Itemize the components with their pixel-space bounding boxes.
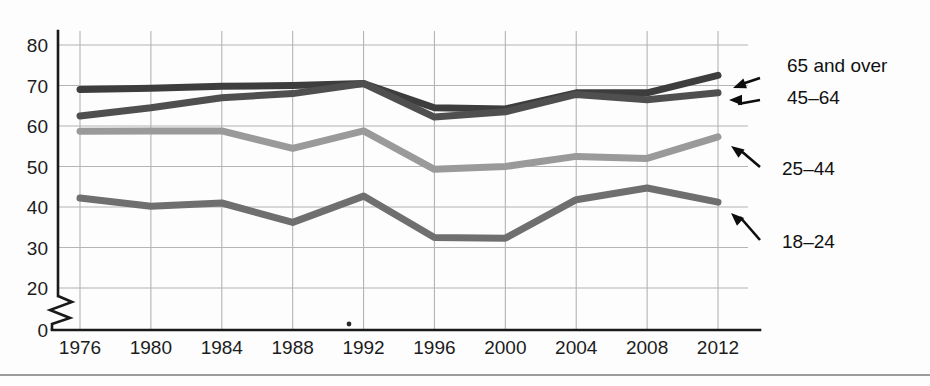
y-tick-label: 20 [27,278,48,299]
x-tick-label: 1980 [130,337,172,358]
y-tick-label: 50 [27,157,48,178]
data-line-18-24 [80,188,718,238]
annotation-arrowhead [729,95,742,105]
y-tick-label: 80 [27,35,48,56]
annotation-leader-line [740,150,760,167]
x-tick-label: 2004 [555,337,598,358]
data-line-25-44 [80,131,718,169]
y-axis-break-symbol [50,296,72,330]
data-series-group [80,75,718,238]
annotation-leader-line [740,217,760,240]
annotations-group: 65 and over45–6425–4418–24 [729,55,888,252]
y-tick-label: 30 [27,238,48,259]
x-tick-label: 2000 [484,337,526,358]
annotation-arrowhead [731,213,744,226]
x-tick-label: 1988 [272,337,314,358]
figure-container: 0203040506070801976198019841988199219962… [0,0,930,386]
x-tick-label: 1976 [59,337,101,358]
series-annotation-label-25-44: 25–44 [782,158,835,179]
annotation-arrowhead [733,79,747,89]
x-tick-label: 2008 [626,337,668,358]
scan-speck [347,322,352,327]
y-tick-label: 40 [27,197,48,218]
series-annotation-label-18-24: 18–24 [782,231,835,252]
series-annotation-label-65-and-over: 65 and over [787,55,888,76]
tick-labels-group: 0203040506070801976198019841988199219962… [27,35,739,358]
line-chart: 0203040506070801976198019841988199219962… [0,0,930,386]
y-tick-label: 60 [27,116,48,137]
x-tick-label: 1984 [201,337,244,358]
y-tick-label: 0 [37,320,48,341]
x-tick-label: 1996 [413,337,455,358]
series-annotation-label-45-64: 45–64 [787,87,840,108]
x-tick-label: 1992 [342,337,384,358]
x-tick-label: 2012 [697,337,739,358]
grid [58,31,748,330]
axes [50,31,760,330]
annotation-arrowhead [731,146,745,158]
y-tick-label: 70 [27,76,48,97]
